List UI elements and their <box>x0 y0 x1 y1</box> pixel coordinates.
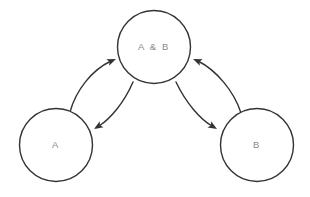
diagram-canvas: A & B A B <box>0 0 310 197</box>
node-b-label: B <box>253 139 261 150</box>
node-b[interactable]: B <box>221 109 294 182</box>
node-a[interactable]: A <box>20 109 93 182</box>
edge-b-to-ab[interactable] <box>192 56 241 113</box>
edge-ab-to-a-path <box>99 82 133 126</box>
edge-ab-to-b[interactable] <box>176 82 219 132</box>
edge-a-to-ab-arrowhead <box>106 56 117 66</box>
edge-a-to-ab[interactable] <box>70 56 117 112</box>
edge-b-to-ab-arrowhead <box>192 56 203 66</box>
edge-ab-to-a-arrowhead <box>92 121 103 132</box>
node-ab[interactable]: A & B <box>118 11 191 84</box>
edge-ab-to-b-path <box>176 82 212 126</box>
node-a-label: A <box>52 139 60 150</box>
nodes-group: A & B A B <box>20 11 294 182</box>
state-diagram: A & B A B <box>0 0 310 197</box>
edge-a-to-ab-path <box>70 61 111 112</box>
edge-ab-to-a[interactable] <box>92 82 133 132</box>
node-ab-label: A & B <box>138 41 170 52</box>
edge-b-to-ab-path <box>198 61 241 113</box>
edge-ab-to-b-arrowhead <box>207 121 218 132</box>
